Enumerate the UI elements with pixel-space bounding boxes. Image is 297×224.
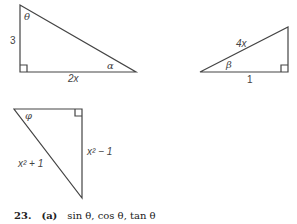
angle-alpha-label: α <box>107 61 114 71</box>
angle-beta-label: β <box>226 60 232 70</box>
side-1-label: 1 <box>247 75 253 85</box>
angle-phi-label: φ <box>25 111 32 121</box>
side-3-label: 3 <box>10 36 16 46</box>
hypotenuse-4x-label: 4x <box>236 39 247 49</box>
exercise-caption: 23.(a)sin θ, cos θ, tan θ <box>14 210 156 221</box>
exercise-number: 23. <box>14 210 31 221</box>
triangle-figures <box>0 0 297 224</box>
angle-theta-label: θ <box>24 12 30 22</box>
triangle-2 <box>200 27 288 72</box>
side-2x-label: 2x <box>68 74 79 84</box>
side-vertical-label: x² − 1 <box>87 147 112 157</box>
hypotenuse-label: x² + 1 <box>18 159 43 169</box>
exercise-part: (a) <box>41 210 57 221</box>
exercise-text: sin θ, cos θ, tan θ <box>67 210 155 221</box>
triangle-1 <box>20 5 136 72</box>
triangle-3 <box>14 109 82 198</box>
